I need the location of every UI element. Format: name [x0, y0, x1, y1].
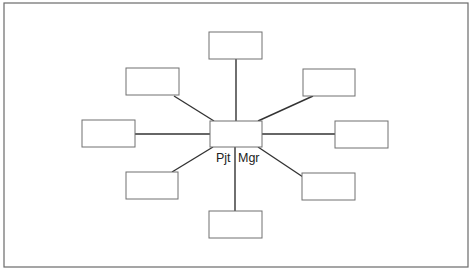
spoke-box-right	[335, 121, 388, 148]
center-label-right: Mgr	[238, 152, 260, 165]
hub-spoke-diagram	[0, 0, 470, 270]
spoke-box-top-right	[303, 69, 355, 96]
spoke-box-bottom	[209, 211, 262, 238]
connector-bottom-left	[172, 147, 213, 172]
connector-top-right	[258, 96, 313, 121]
center-label-left: Pjt	[216, 152, 231, 165]
spoke-box-top	[209, 32, 262, 59]
spoke-box-bottom-left	[126, 172, 178, 199]
spoke-box-left	[82, 120, 135, 147]
spoke-box-bottom-right	[302, 173, 355, 200]
center-hub-box	[210, 121, 262, 147]
connector-bottom-right	[258, 147, 303, 177]
spoke-box-top-left	[126, 68, 179, 95]
connector-top-left	[174, 96, 214, 121]
